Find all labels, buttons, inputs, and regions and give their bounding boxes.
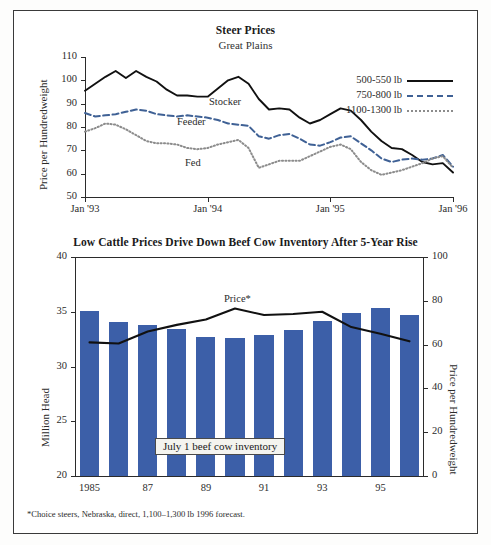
legend-key-dashed-icon — [407, 90, 453, 100]
top-chart-subtitle: Great Plains — [13, 39, 478, 51]
tick-mark — [81, 80, 86, 81]
top-chart-title: Steer Prices — [13, 24, 478, 36]
x-tick-label: Jan '93 — [63, 203, 107, 214]
tick-mark — [424, 432, 429, 433]
right-y-tick-label: 20 — [432, 425, 458, 436]
y-tick-label: 110 — [51, 50, 77, 61]
beef-cow-inventory-chart: Low Cattle Prices Drive Down Beef Cow In… — [13, 232, 478, 534]
left-y-tick-label: 25 — [41, 414, 67, 425]
legend-label: 750-800 lb — [356, 89, 402, 100]
legend-label: 1100-1300 lb — [346, 104, 402, 115]
tick-mark — [85, 197, 86, 202]
y-tick-label: 100 — [51, 73, 77, 84]
tick-mark — [71, 476, 76, 477]
annotation-price: Price* — [224, 293, 251, 304]
left-y-tick-label: 20 — [41, 469, 67, 480]
legend-key-dotted-icon — [407, 105, 453, 115]
figure-footnote: *Choice steers, Nebraska, direct, 1,100–… — [27, 509, 245, 519]
legend-item-2: 750-800 lb — [268, 87, 453, 102]
inventory-callout: July 1 beef cow inventory — [155, 438, 285, 455]
x-tick-label: Jan '96 — [431, 203, 475, 214]
top-chart-x-axis — [85, 197, 453, 198]
annotation-fed: Fed — [185, 157, 201, 168]
x-tick-label: 1985 — [68, 482, 112, 493]
tick-mark — [424, 301, 429, 302]
right-y-tick-label: 100 — [432, 250, 458, 261]
y-tick-label: 90 — [51, 97, 77, 108]
x-tick-label: 95 — [358, 482, 402, 493]
bottom-chart-title: Low Cattle Prices Drive Down Beef Cow In… — [13, 236, 478, 248]
tick-mark — [81, 127, 86, 128]
tick-mark — [208, 197, 209, 202]
tick-mark — [424, 257, 429, 258]
x-tick-label: 87 — [126, 482, 170, 493]
y-tick-label: 60 — [51, 167, 77, 178]
y-tick-label: 80 — [51, 120, 77, 131]
tick-mark — [71, 312, 76, 313]
legend-key-solid-icon — [407, 75, 453, 85]
tick-mark — [424, 345, 429, 346]
figure-page: Steer Prices Great Plains Price per Hund… — [0, 0, 491, 545]
y-tick-label: 50 — [51, 190, 77, 201]
tick-mark — [81, 57, 86, 58]
annotation-stocker: Stocker — [209, 96, 241, 107]
tick-mark — [81, 174, 86, 175]
top-chart-y-axis-title: Price per Hundredweight — [37, 79, 49, 190]
x-tick-label: 89 — [184, 482, 228, 493]
right-y-tick-label: 40 — [432, 381, 458, 392]
tick-mark — [71, 367, 76, 368]
y-tick-label: 70 — [51, 143, 77, 154]
right-y-tick-label: 80 — [432, 294, 458, 305]
legend-item-1: 500-550 lb — [268, 72, 453, 87]
left-y-tick-label: 30 — [41, 360, 67, 371]
tick-mark — [71, 421, 76, 422]
x-tick-label: Jan '95 — [308, 203, 352, 214]
tick-mark — [81, 150, 86, 151]
x-tick-label: 93 — [300, 482, 344, 493]
top-chart-legend: 500-550 lb750-800 lb1100-1300 lb — [268, 72, 453, 117]
left-y-tick-label: 35 — [41, 305, 67, 316]
legend-item-3: 1100-1300 lb — [268, 102, 453, 117]
legend-label: 500-550 lb — [356, 74, 402, 85]
left-y-tick-label: 40 — [41, 250, 67, 261]
tick-mark — [424, 388, 429, 389]
tick-mark — [71, 257, 76, 258]
right-y-tick-label: 0 — [432, 469, 458, 480]
tick-mark — [81, 104, 86, 105]
right-y-tick-label: 60 — [432, 338, 458, 349]
tick-mark — [330, 197, 331, 202]
steer-prices-chart: Steer Prices Great Plains Price per Hund… — [13, 10, 478, 232]
tick-mark — [453, 197, 454, 202]
x-tick-label: 91 — [242, 482, 286, 493]
tick-mark — [424, 476, 429, 477]
annotation-feeder: Feeder — [177, 116, 206, 127]
x-tick-label: Jan '94 — [186, 203, 230, 214]
